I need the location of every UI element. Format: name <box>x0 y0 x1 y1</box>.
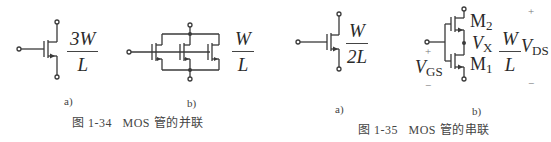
fig-1-34a-ratio: 3W L <box>67 29 98 74</box>
fig-1-35-caption: 图 1-35 MOS 管的串联 <box>358 120 490 138</box>
ratio-numerator: 3W <box>67 29 98 52</box>
vds-minus: − <box>528 78 534 89</box>
vx-label: VX <box>472 34 492 52</box>
ratio-denominator: L <box>232 52 254 74</box>
m1-label: M1 <box>470 55 493 73</box>
ratio-denominator: L <box>67 52 98 74</box>
vgs-plus: + <box>425 46 431 57</box>
fig-1-34b-parallel-transistors <box>127 23 219 81</box>
fig-1-34b-ratio: W L <box>232 29 254 74</box>
vgs-label: VGS <box>415 58 443 76</box>
fig-1-35b-ratio: W L <box>499 29 521 74</box>
ratio-denominator: 2L <box>346 44 368 66</box>
fig-1-35b-label: b) <box>472 105 481 117</box>
fig-1-35a-transistor <box>296 12 341 71</box>
m2-label: M2 <box>470 12 493 30</box>
ratio-numerator: W <box>232 29 254 52</box>
fig-1-35a-label: a) <box>335 103 344 115</box>
fig-1-34-caption: 图 1-34 MOS 管的并联 <box>72 113 204 131</box>
vds-label: VDS <box>521 37 549 55</box>
fig-1-34a-label: a) <box>64 95 73 107</box>
vx-node <box>462 41 466 45</box>
ratio-numerator: W <box>499 29 521 52</box>
vgs-minus: − <box>425 80 431 91</box>
ratio-numerator: W <box>346 21 368 44</box>
fig-1-34a-transistor <box>17 20 59 79</box>
fig-1-35a-ratio: W 2L <box>346 21 368 66</box>
vds-plus: + <box>528 6 534 17</box>
fig-1-34b-label: b) <box>187 97 196 109</box>
ratio-denominator: L <box>499 52 521 74</box>
